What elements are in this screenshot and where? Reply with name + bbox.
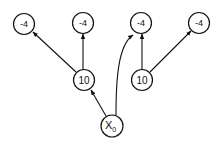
node-label: 10: [136, 75, 148, 86]
node-mid2: 10: [132, 70, 153, 91]
node-leaf2: -4: [73, 13, 94, 34]
edge-mid1-to-leaf1: [33, 32, 76, 72]
node-label: -4: [79, 18, 87, 28]
node-leaf1: -4: [14, 14, 35, 35]
node-leaf3: -4: [131, 13, 152, 34]
node-leaf4: -4: [189, 13, 210, 34]
node-mid1: 10: [74, 70, 95, 91]
node-label: 10: [78, 75, 90, 86]
edges: [33, 31, 191, 116]
edge-root-to-mid1: [91, 90, 106, 116]
node-root: X0: [101, 115, 123, 137]
node-label: -4: [20, 19, 28, 29]
node-label: -4: [137, 18, 145, 28]
root-label-subscript: 0: [112, 126, 116, 133]
edge-root-to-leaf3: [116, 35, 133, 115]
edge-mid2-to-leaf4: [150, 31, 191, 72]
graph-diagram: -4 -4 -4 -4 10 10 X0: [0, 0, 223, 145]
node-label: -4: [195, 18, 203, 28]
